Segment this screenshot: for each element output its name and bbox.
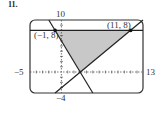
y-min-label: −4 — [56, 93, 66, 103]
x-min-label: −5 — [14, 67, 24, 77]
x-max-label: 13 — [146, 67, 156, 77]
label-point-11-8: (11, 8) — [107, 20, 131, 30]
y-max-label: 10 — [56, 9, 66, 19]
inequality-graph: (−1, 8) (11, 8) 10 −4 −5 13 — [0, 0, 157, 121]
label-point-neg1-8: (−1, 8) — [34, 30, 59, 40]
